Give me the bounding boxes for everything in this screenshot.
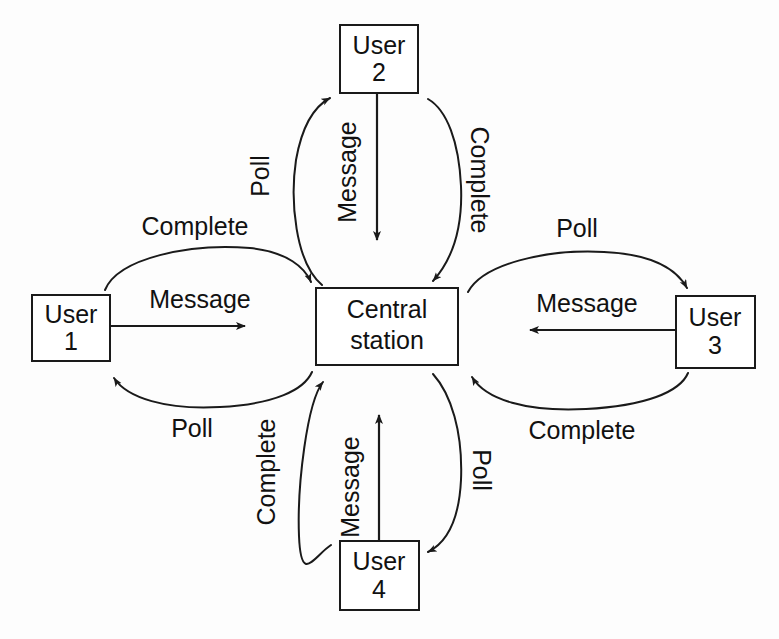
polling-network-diagram: Central station User 1 User 2 User 3 Use… — [0, 0, 779, 639]
user2-poll-label: Poll — [246, 155, 274, 197]
user-4-label-line2: 4 — [372, 575, 386, 603]
user3-poll-curve — [468, 252, 687, 292]
node-user-1[interactable]: User 1 — [32, 295, 110, 361]
user2-message-label: Message — [333, 121, 361, 222]
node-user-4[interactable]: User 4 — [340, 541, 419, 610]
central-station-label-line1: Central — [347, 295, 428, 323]
user3-message-label: Message — [536, 289, 637, 317]
user1-poll-curve — [114, 372, 312, 407]
node-central-station[interactable]: Central station — [316, 288, 458, 365]
user-2-label-line2: 2 — [372, 58, 386, 86]
edge-user2-poll[interactable]: Poll — [246, 98, 330, 285]
edge-user3-message[interactable]: Message — [530, 289, 676, 330]
central-station-label-line2: station — [350, 326, 424, 354]
user4-poll-curve — [428, 374, 461, 552]
user4-complete-label: Complete — [252, 419, 280, 526]
user-1-label-line1: User — [45, 300, 98, 328]
edge-user4-poll[interactable]: Poll — [428, 374, 496, 552]
user-3-label-line2: 3 — [708, 331, 722, 359]
edge-user4-complete[interactable]: Complete — [252, 382, 331, 564]
user3-complete-curve — [472, 373, 688, 409]
edge-user1-poll[interactable]: Poll — [114, 372, 312, 442]
user3-poll-label: Poll — [556, 214, 598, 242]
edge-user2-complete[interactable]: Complete — [428, 99, 494, 281]
user2-complete-curve — [428, 99, 461, 281]
user4-message-label: Message — [336, 436, 364, 537]
edge-user1-complete[interactable]: Complete — [105, 212, 311, 290]
user2-poll-curve — [294, 98, 330, 285]
edge-user3-complete[interactable]: Complete — [472, 373, 688, 444]
user1-complete-label: Complete — [142, 212, 249, 240]
user1-message-label: Message — [149, 285, 250, 313]
user-4-label-line1: User — [353, 547, 406, 575]
node-user-3[interactable]: User 3 — [676, 296, 755, 368]
user4-poll-label: Poll — [468, 449, 496, 491]
user1-poll-label: Poll — [171, 414, 213, 442]
user-1-label-line2: 1 — [64, 327, 78, 355]
diagram-canvas: Central station User 1 User 2 User 3 Use… — [0, 0, 779, 639]
edge-user3-poll[interactable]: Poll — [468, 214, 687, 292]
edge-user2-message[interactable]: Message — [333, 93, 377, 240]
user-3-label-line1: User — [689, 303, 742, 331]
user4-complete-curve — [299, 382, 331, 564]
edge-user4-message[interactable]: Message — [336, 415, 379, 541]
node-user-2[interactable]: User 2 — [340, 25, 418, 93]
user1-complete-curve — [105, 247, 311, 290]
user3-complete-label: Complete — [529, 416, 636, 444]
user-2-label-line1: User — [353, 31, 406, 59]
edge-user1-message[interactable]: Message — [110, 285, 251, 326]
user2-complete-label: Complete — [466, 127, 494, 234]
